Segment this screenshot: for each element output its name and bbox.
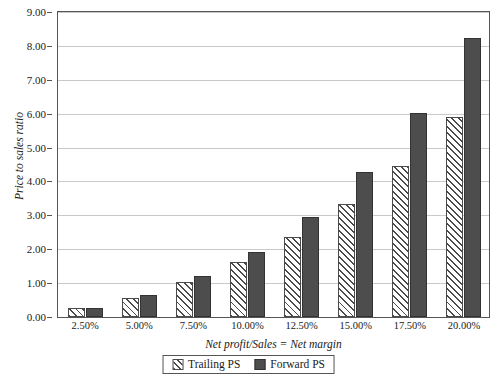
x-axis-tick-label: 7.50% xyxy=(180,320,207,331)
bar-trailing-ps xyxy=(446,117,463,317)
y-axis-tick-mark xyxy=(47,249,52,250)
y-axis-tick-label: 6.00 xyxy=(27,108,46,120)
solid-swatch-icon xyxy=(254,359,265,370)
legend-item-label: Trailing PS xyxy=(188,358,240,370)
bar-forward-ps xyxy=(464,38,481,317)
y-axis-tick-mark xyxy=(47,283,52,284)
legend-item-label: Forward PS xyxy=(270,358,325,370)
x-axis-label: Net profit/Sales = Net margin xyxy=(57,338,490,350)
y-axis-tick-label: 9.00 xyxy=(27,6,46,18)
x-axis-tick-label: 5.00% xyxy=(126,320,153,331)
y-axis-tick-label: 7.00 xyxy=(27,74,46,86)
x-axis-tick-labels: 2.50%5.00%7.50%10.00%12.50%15.00%17.50%2… xyxy=(57,320,490,336)
y-axis-tick-mark xyxy=(47,148,52,149)
y-axis-tick-mark xyxy=(47,80,52,81)
y-axis-tick-mark xyxy=(47,12,52,13)
y-axis-tick-mark xyxy=(47,181,52,182)
y-axis-tick-label: 3.00 xyxy=(27,209,46,221)
y-axis-tick-mark xyxy=(47,215,52,216)
y-axis-tick-mark xyxy=(47,46,52,47)
x-axis-tick-label: 2.50% xyxy=(72,320,99,331)
bar-group xyxy=(58,12,491,317)
y-axis-tick-label: 2.00 xyxy=(27,243,46,255)
legend-item: Trailing PS xyxy=(172,358,240,370)
x-axis-tick-label: 10.00% xyxy=(231,320,263,331)
y-axis-tick-label: 5.00 xyxy=(27,142,46,154)
bars-container xyxy=(58,12,489,317)
x-axis-tick-label: 17.50% xyxy=(394,320,426,331)
y-axis-tick-mark xyxy=(47,114,52,115)
legend-item: Forward PS xyxy=(254,358,325,370)
y-axis-tick-label: 0.00 xyxy=(27,311,46,323)
y-axis-tick-labels: 0.001.002.003.004.005.006.007.008.009.00 xyxy=(0,11,52,318)
y-axis-tick-label: 4.00 xyxy=(27,175,46,187)
price-to-sales-bar-chart: Price to sales ratio 0.001.002.003.004.0… xyxy=(0,0,497,381)
chart-legend: Trailing PSForward PS xyxy=(162,355,335,374)
y-axis-tick-label: 8.00 xyxy=(27,40,46,52)
hatched-swatch-icon xyxy=(172,359,183,370)
y-axis-tick-label: 1.00 xyxy=(27,277,46,289)
x-axis-tick-label: 12.50% xyxy=(285,320,317,331)
x-axis-tick-label: 15.00% xyxy=(340,320,372,331)
x-axis-tick-label: 20.00% xyxy=(448,320,480,331)
y-axis-tick-mark xyxy=(47,317,52,318)
